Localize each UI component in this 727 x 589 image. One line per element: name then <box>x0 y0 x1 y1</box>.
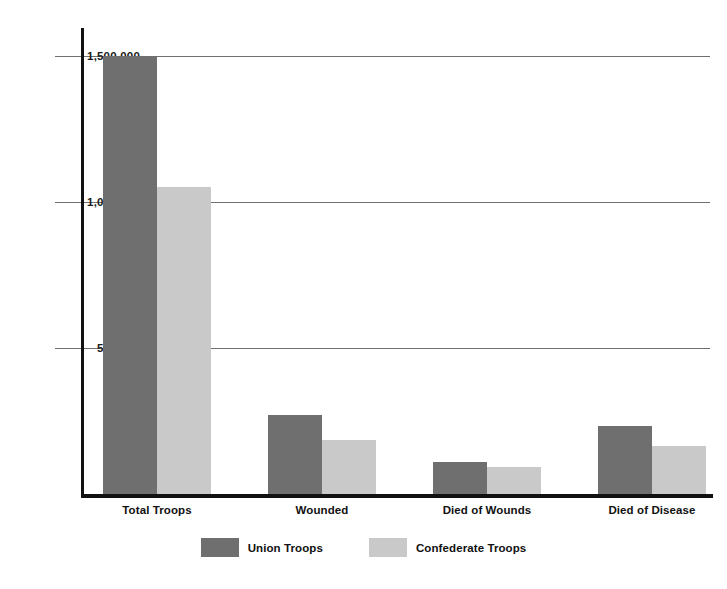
bar-died-of-wounds-confederate <box>487 467 541 494</box>
bar-wounded-union <box>268 415 322 494</box>
bar-total-troops-confederate <box>157 187 211 494</box>
legend-label: Confederate Troops <box>416 542 526 554</box>
bar-chart: 1,500,0001,000,000500,000 Total TroopsWo… <box>0 0 727 589</box>
chart-legend: Union TroopsConfederate Troops <box>0 538 727 557</box>
legend-entry-union: Union Troops <box>201 538 323 557</box>
category-label-died-of-disease: Died of Disease <box>608 504 695 516</box>
bar-died-of-wounds-union <box>433 462 487 494</box>
bars-layer <box>0 0 727 494</box>
category-label-died-of-wounds: Died of Wounds <box>443 504 532 516</box>
bar-total-troops-union <box>103 56 157 494</box>
legend-entry-confederate: Confederate Troops <box>369 538 526 557</box>
category-label-wounded: Wounded <box>296 504 349 516</box>
bar-died-of-disease-union <box>598 426 652 494</box>
legend-swatch-icon <box>201 538 239 557</box>
bar-wounded-confederate <box>322 440 376 494</box>
bar-died-of-disease-confederate <box>652 446 706 494</box>
legend-label: Union Troops <box>248 542 323 554</box>
x-axis-line <box>81 494 713 498</box>
legend-swatch-icon <box>369 538 407 557</box>
category-label-total-troops: Total Troops <box>122 504 191 516</box>
